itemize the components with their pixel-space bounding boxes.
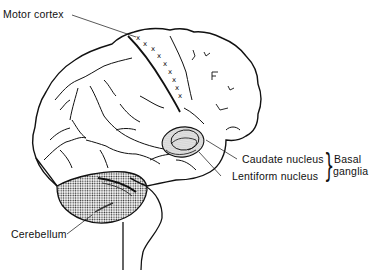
svg-text:x: x [151,45,155,53]
label-motor-cortex: Motor cortex [3,8,64,20]
cerebrum [33,29,261,186]
label-basal: Basal [334,153,361,165]
svg-text:x: x [172,76,176,84]
svg-text:x: x [157,52,161,60]
svg-text:x: x [175,84,179,92]
gyri-sulci [44,36,240,170]
label-lentiform-nucleus: Lentiform nucleus [232,170,318,182]
svg-text:x: x [163,60,167,68]
svg-text:x: x [136,34,140,42]
label-caudate-nucleus: Caudate nucleus [242,153,324,165]
svg-text:x: x [178,92,182,100]
frontal-marks [192,50,234,110]
label-cerebellum: Cerebellum [11,228,67,240]
svg-text:x: x [168,68,172,76]
svg-text:x: x [143,40,147,48]
motor-cortex-region: x x x x x x x x x [128,34,182,112]
brain-diagram: x x x x x x x x x Motor cortex [0,0,377,277]
label-ganglia: ganglia [333,165,368,177]
